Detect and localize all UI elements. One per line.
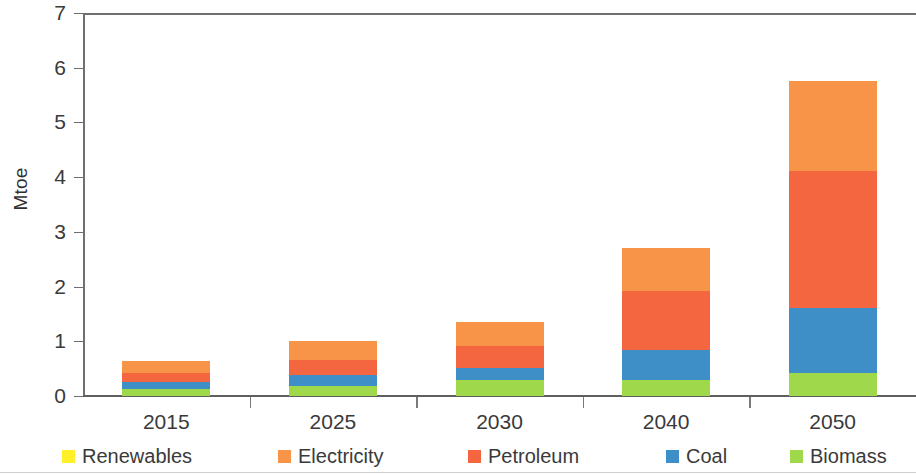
- legend-label: Electricity: [298, 446, 384, 466]
- legend-divider: [0, 472, 916, 473]
- bar-segment-biomass: [456, 380, 544, 396]
- legend-label: Coal: [686, 446, 727, 466]
- legend-swatch-icon: [666, 450, 679, 463]
- y-axis-title: Mtoe: [10, 144, 32, 234]
- bars-layer: [83, 13, 916, 396]
- x-tick-label: 2025: [263, 410, 403, 434]
- legend-swatch-icon: [790, 450, 803, 463]
- bar-segment-petroleum: [289, 360, 377, 375]
- stacked-bar-chart: Mtoe 01234567 20152025203020402050 Renew…: [0, 0, 916, 474]
- legend-swatch-icon: [468, 450, 481, 463]
- legend-item-coal[interactable]: Coal: [666, 446, 727, 466]
- legend-label: Biomass: [810, 446, 887, 466]
- y-tick-label: 2: [32, 276, 66, 297]
- bar-segment-electricity: [456, 322, 544, 346]
- y-tick-mark: [74, 341, 83, 342]
- y-tick-label: 1: [32, 330, 66, 351]
- bar-segment-biomass: [122, 389, 210, 396]
- y-tick-mark: [74, 177, 83, 178]
- bar-segment-biomass: [789, 373, 877, 396]
- y-tick-mark: [74, 396, 83, 397]
- bar-segment-coal: [789, 308, 877, 373]
- bar-segment-petroleum: [122, 373, 210, 382]
- bar-segment-coal: [622, 350, 710, 380]
- y-tick-mark: [74, 122, 83, 123]
- x-tick-label: 2030: [430, 410, 570, 434]
- bar-2040: [622, 248, 710, 396]
- x-tick-mark: [583, 397, 585, 408]
- y-tick-label: 6: [32, 57, 66, 78]
- bar-segment-petroleum: [456, 346, 544, 368]
- x-tick-mark: [416, 397, 418, 408]
- legend-label: Petroleum: [488, 446, 579, 466]
- y-tick-mark: [74, 232, 83, 233]
- legend-label: Renewables: [82, 446, 192, 466]
- bar-2025: [289, 341, 377, 396]
- x-tick-label: 2050: [763, 410, 903, 434]
- bar-segment-electricity: [622, 248, 710, 291]
- x-tick-label: 2040: [596, 410, 736, 434]
- x-tick-label: 2015: [96, 410, 236, 434]
- legend-item-electricity[interactable]: Electricity: [278, 446, 384, 466]
- bar-segment-coal: [289, 375, 377, 385]
- bar-segment-electricity: [122, 361, 210, 373]
- bar-2030: [456, 322, 544, 396]
- bar-segment-biomass: [289, 386, 377, 396]
- bar-segment-petroleum: [622, 291, 710, 350]
- bar-segment-petroleum: [789, 171, 877, 308]
- legend-swatch-icon: [62, 450, 75, 463]
- bar-segment-electricity: [789, 81, 877, 171]
- y-tick-label: 0: [32, 385, 66, 406]
- y-tick-mark: [74, 13, 83, 14]
- x-tick-mark: [250, 397, 252, 408]
- bar-segment-coal: [456, 368, 544, 381]
- y-tick-label: 3: [32, 221, 66, 242]
- chart-legend: RenewablesElectricityPetroleumCoalBiomas…: [0, 444, 916, 474]
- legend-swatch-icon: [278, 450, 291, 463]
- y-tick-mark: [74, 68, 83, 69]
- legend-item-renewables[interactable]: Renewables: [62, 446, 192, 466]
- bar-2050: [789, 81, 877, 396]
- legend-item-biomass[interactable]: Biomass: [790, 446, 887, 466]
- bar-segment-biomass: [622, 380, 710, 396]
- bar-2015: [122, 361, 210, 396]
- y-tick-label: 4: [32, 166, 66, 187]
- bar-segment-coal: [122, 382, 210, 389]
- y-tick-label: 7: [32, 2, 66, 23]
- legend-item-petroleum[interactable]: Petroleum: [468, 446, 579, 466]
- y-tick-mark: [74, 287, 83, 288]
- y-tick-label: 5: [32, 111, 66, 132]
- bar-segment-electricity: [289, 341, 377, 360]
- x-tick-mark: [749, 397, 751, 408]
